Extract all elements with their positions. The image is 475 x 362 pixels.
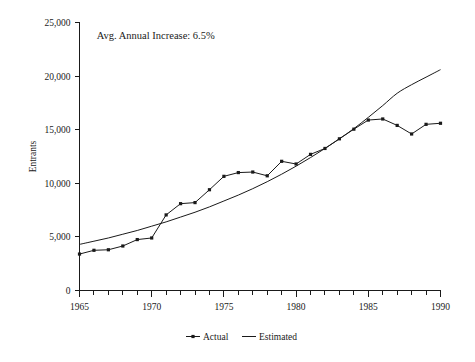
x-tick-label: 1980 — [287, 302, 306, 312]
chart-legend: Actual Estimated — [186, 332, 297, 342]
legend-label-estimated: Estimated — [259, 332, 297, 342]
data-point-marker — [165, 213, 168, 216]
y-axis-ticks — [75, 23, 80, 291]
data-point-marker — [251, 170, 254, 173]
data-point-marker — [295, 162, 298, 165]
data-point-marker — [222, 175, 225, 178]
data-point-marker — [92, 249, 95, 252]
y-tick-label: 15,000 — [44, 125, 70, 135]
x-tick-label: 1970 — [142, 302, 161, 312]
data-point-marker — [193, 201, 196, 204]
data-point-marker — [136, 238, 139, 241]
y-tick-label: 25,000 — [44, 18, 70, 28]
series-markers-actual — [78, 117, 442, 255]
legend-label-actual: Actual — [203, 332, 229, 342]
data-point-marker — [121, 244, 124, 247]
data-point-marker — [410, 132, 413, 135]
legend-swatch-actual-marker — [191, 335, 194, 338]
data-point-marker — [367, 118, 370, 121]
x-tick-label: 1990 — [431, 302, 450, 312]
data-point-marker — [424, 123, 427, 126]
series-line-actual — [80, 119, 441, 254]
data-point-marker — [78, 252, 81, 255]
data-point-marker — [309, 153, 312, 156]
data-point-marker — [338, 137, 341, 140]
data-point-marker — [179, 202, 182, 205]
data-point-marker — [381, 117, 384, 120]
y-axis-title: Entrants — [28, 140, 38, 172]
data-point-marker — [280, 160, 283, 163]
annotation-avg-annual-increase: Avg. Annual Increase: 6.5% — [97, 30, 215, 41]
x-axis-ticks — [80, 291, 441, 297]
y-axis-tick-labels: 05,00010,00015,00020,00025,000 — [44, 18, 70, 296]
data-point-marker — [266, 174, 269, 177]
legend-item-actual: Actual — [186, 332, 229, 342]
y-tick-label: 20,000 — [44, 72, 70, 82]
x-tick-label: 1975 — [214, 302, 233, 312]
y-tick-label: 5,000 — [49, 232, 71, 242]
data-point-marker — [107, 248, 110, 251]
data-point-marker — [396, 124, 399, 127]
data-point-marker — [237, 171, 240, 174]
chart-figure: 05,00010,00015,00020,00025,000 196519701… — [0, 0, 475, 362]
data-point-marker — [439, 122, 442, 125]
line-chart: 05,00010,00015,00020,00025,000 196519701… — [0, 0, 475, 362]
y-tick-label: 10,000 — [44, 179, 70, 189]
x-tick-label: 1985 — [359, 302, 378, 312]
x-tick-label: 1965 — [70, 302, 89, 312]
x-axis-tick-labels: 196519701975198019851990 — [70, 302, 450, 312]
y-tick-label: 0 — [66, 286, 71, 296]
data-point-marker — [323, 147, 326, 150]
series-line-estimated — [80, 70, 441, 245]
data-point-marker — [352, 128, 355, 131]
data-point-marker — [150, 236, 153, 239]
data-point-marker — [208, 188, 211, 191]
legend-item-estimated: Estimated — [242, 332, 297, 342]
